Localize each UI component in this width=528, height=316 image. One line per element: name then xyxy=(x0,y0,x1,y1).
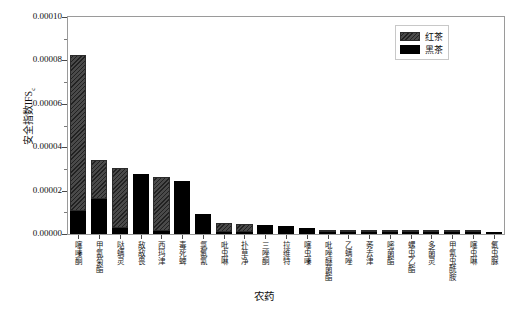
x-axis-tick-mark xyxy=(244,235,245,239)
y-axis-title: 安全指数IFSc xyxy=(20,57,37,177)
x-axis-tick-label: 哒螨灵 xyxy=(116,241,124,265)
bar-column[interactable] xyxy=(340,230,356,234)
bar-column[interactable] xyxy=(153,177,169,234)
x-axis-tick-mark xyxy=(99,235,100,239)
legend-swatch-dark_tea xyxy=(400,45,420,54)
bar-segment-dark-tea xyxy=(216,232,232,234)
bar-column[interactable] xyxy=(465,230,481,234)
legend-item[interactable]: 红茶 xyxy=(400,30,443,42)
legend-item[interactable]: 黑茶 xyxy=(400,43,443,55)
bar-segment-red-tea xyxy=(91,160,107,199)
bar-segment-dark-tea xyxy=(423,232,439,234)
x-axis-tick-mark xyxy=(182,235,183,239)
bar-segment-red-tea xyxy=(112,168,128,228)
x-axis-tick-label: 噻虫啉 xyxy=(469,241,477,265)
bar-segment-dark-tea xyxy=(340,232,356,234)
x-axis-tick-label: 氟虫脲 xyxy=(490,241,498,265)
bar-segment-dark-tea xyxy=(278,226,294,234)
bar-column[interactable] xyxy=(278,226,294,234)
bar-segment-red-tea xyxy=(70,55,86,211)
bar-segment-dark-tea xyxy=(299,228,315,235)
bar-segment-dark-tea xyxy=(319,232,335,234)
x-axis-tick-mark xyxy=(494,235,495,239)
bar-column[interactable] xyxy=(112,168,128,234)
x-axis-tick-mark xyxy=(78,235,79,239)
bar-column[interactable] xyxy=(133,174,149,234)
x-axis-tick-label: 扑草净 xyxy=(240,241,248,265)
x-axis-tick-label: 甲氰虫酰胺 xyxy=(448,241,456,281)
bar-column[interactable] xyxy=(174,181,190,234)
x-axis-tick-label: 乙螨唑 xyxy=(344,241,352,265)
bar-segment-dark-tea xyxy=(195,214,211,234)
x-axis-tick-label: 甲氰菊酯 xyxy=(95,241,103,273)
x-axis-tick-label: 多菌灵 xyxy=(427,241,435,265)
bar-segment-dark-tea xyxy=(257,225,273,234)
x-axis-tick-label: 敌敌畏 xyxy=(137,241,145,265)
x-axis-tick-mark xyxy=(203,235,204,239)
figure-top-strip xyxy=(60,0,480,9)
bar-column[interactable] xyxy=(216,223,232,234)
x-axis-tick-mark xyxy=(307,235,308,239)
x-axis-tick-mark xyxy=(411,235,412,239)
x-axis-tick-label: 噻虫嗪 xyxy=(303,241,311,265)
bar-column[interactable] xyxy=(486,232,502,234)
x-axis-tick-mark xyxy=(265,235,266,239)
bar-column[interactable] xyxy=(195,214,211,234)
bar-column[interactable] xyxy=(402,230,418,234)
bar-segment-dark-tea xyxy=(486,232,502,234)
x-axis-tick-label: 西玛津 xyxy=(157,241,165,265)
bar-segment-dark-tea xyxy=(91,199,107,234)
x-axis-tick-label: 吡虫啉 xyxy=(220,241,228,265)
bar-column[interactable] xyxy=(319,230,335,234)
bar-segment-red-tea xyxy=(153,177,169,231)
bar-column[interactable] xyxy=(257,225,273,234)
bar-segment-dark-tea xyxy=(402,232,418,234)
legend-label: 黑茶 xyxy=(425,43,443,56)
bar-segment-dark-tea xyxy=(112,228,128,235)
x-axis-tick-label: 嘧菌酯 xyxy=(386,241,394,265)
x-axis-tick-mark xyxy=(369,235,370,239)
bar-segment-red-tea xyxy=(236,224,252,232)
x-axis-tick-mark xyxy=(473,235,474,239)
bar-column[interactable] xyxy=(91,160,107,234)
figure-canvas: 0.000000.000020.000040.000060.000080.000… xyxy=(0,0,528,316)
x-axis-tick-label: 毒死蜱 xyxy=(178,241,186,265)
bar-column[interactable] xyxy=(361,230,377,234)
y-axis-tick-label: 0.00010 xyxy=(18,11,62,21)
x-axis-tick-mark xyxy=(348,235,349,239)
bar-segment-dark-tea xyxy=(236,232,252,234)
x-axis-tick-mark xyxy=(161,235,162,239)
x-axis-title: 农药 xyxy=(0,288,528,303)
y-axis-title-subscript: c xyxy=(29,88,37,91)
legend: 红茶黑茶 xyxy=(395,25,449,60)
x-axis-tick-mark xyxy=(328,235,329,239)
bar-segment-dark-tea xyxy=(361,232,377,234)
x-axis-tick-mark xyxy=(431,235,432,239)
bar-column[interactable] xyxy=(382,230,398,234)
legend-label: 红茶 xyxy=(425,30,443,43)
x-axis-tick-mark xyxy=(286,235,287,239)
x-axis-tick-label: 三唑酮 xyxy=(261,241,269,265)
y-axis-tick-label: 0.00000 xyxy=(18,228,62,238)
x-axis-tick-mark xyxy=(390,235,391,239)
bar-column[interactable] xyxy=(444,230,460,234)
x-axis-tick-label: 吡唑醚菌酯 xyxy=(324,241,332,281)
x-axis-tick-mark xyxy=(452,235,453,239)
bar-segment-dark-tea xyxy=(174,181,190,234)
x-axis-tick-label: 拉维特 xyxy=(282,241,290,265)
bar-segment-red-tea xyxy=(216,223,232,232)
x-axis-tick-label: 螺虫乙酯 xyxy=(407,241,415,273)
bar-column[interactable] xyxy=(423,230,439,234)
bar-column[interactable] xyxy=(236,224,252,234)
bar-segment-dark-tea xyxy=(133,174,149,234)
x-axis-tick-mark xyxy=(141,235,142,239)
x-axis-tick-mark xyxy=(120,235,121,239)
bar-segment-dark-tea xyxy=(70,211,86,234)
bar-column[interactable] xyxy=(299,228,315,235)
legend-swatch-red_tea xyxy=(400,32,420,41)
y-axis-title-text: 安全指数IFS xyxy=(23,91,34,145)
bar-segment-dark-tea xyxy=(153,231,169,234)
bar-segment-dark-tea xyxy=(382,232,398,234)
x-axis-tick-mark xyxy=(224,235,225,239)
bar-column[interactable] xyxy=(70,55,86,234)
